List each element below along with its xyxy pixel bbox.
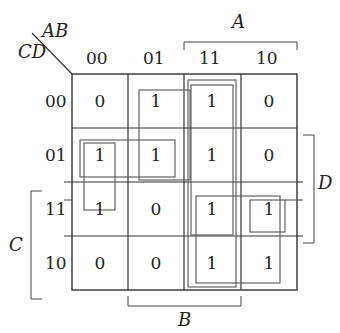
cell-11-00: 1 bbox=[72, 182, 128, 236]
row-vars-label: CD bbox=[18, 43, 46, 61]
col-header-11: 11 bbox=[199, 50, 221, 67]
row-header-11: 11 bbox=[45, 201, 67, 218]
bracket-label-c: C bbox=[9, 236, 23, 254]
cell-00-00: 0 bbox=[72, 74, 128, 128]
cell-01-01: 1 bbox=[128, 128, 184, 182]
col-header-10: 10 bbox=[256, 50, 278, 67]
cell-11-11: 1 bbox=[184, 182, 240, 236]
bracket-label-d: D bbox=[318, 174, 332, 192]
cell-10-01: 0 bbox=[128, 236, 184, 290]
col-header-00: 00 bbox=[86, 50, 108, 67]
cell-11-01: 0 bbox=[128, 182, 184, 236]
cell-01-11: 1 bbox=[184, 128, 240, 182]
bracket-label-a: A bbox=[232, 13, 245, 31]
cell-10-00: 0 bbox=[72, 236, 128, 290]
col-vars-label: AB bbox=[42, 22, 68, 40]
cell-00-10: 0 bbox=[241, 74, 297, 128]
cell-10-10: 1 bbox=[241, 236, 297, 290]
cell-01-10: 0 bbox=[241, 128, 297, 182]
row-header-01: 01 bbox=[45, 147, 67, 164]
row-header-10: 10 bbox=[45, 255, 67, 272]
bracket-label-b: B bbox=[178, 311, 191, 329]
col-header-01: 01 bbox=[143, 50, 165, 67]
cell-11-10: 1 bbox=[241, 182, 297, 236]
cell-10-11: 1 bbox=[184, 236, 240, 290]
cell-00-11: 1 bbox=[184, 74, 240, 128]
row-header-00: 00 bbox=[45, 93, 67, 110]
cell-00-01: 1 bbox=[128, 74, 184, 128]
cell-01-00: 1 bbox=[72, 128, 128, 182]
